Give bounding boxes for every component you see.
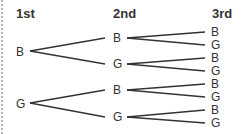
node-l3-6: G: [211, 91, 220, 103]
node-l3-2: G: [211, 39, 220, 51]
node-l1-g: G: [16, 98, 25, 110]
node-l3-3: B: [211, 52, 219, 64]
node-l3-4: G: [211, 65, 220, 77]
tree-branches: [0, 0, 245, 134]
node-l1-b: B: [16, 46, 24, 58]
node-l3-7: B: [211, 104, 219, 116]
node-l2-bb: B: [113, 32, 121, 44]
node-l2-gb: B: [113, 84, 121, 96]
node-l2-bg: G: [113, 58, 122, 70]
node-l3-8: G: [211, 117, 220, 129]
node-l3-1: B: [211, 26, 219, 38]
node-l2-gg: G: [113, 111, 122, 123]
node-l3-5: B: [211, 78, 219, 90]
